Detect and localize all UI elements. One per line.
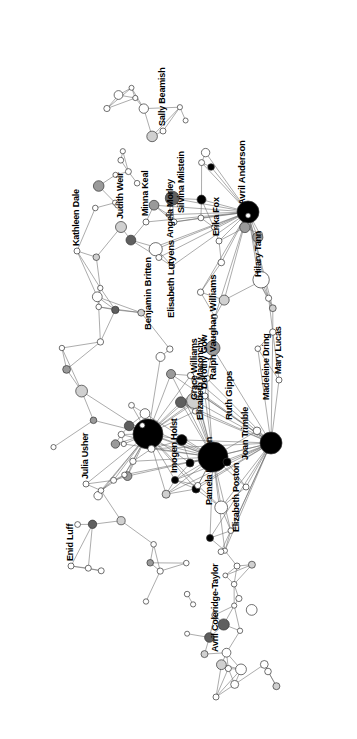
graph-node[interactable] bbox=[59, 345, 64, 350]
graph-node[interactable] bbox=[122, 472, 127, 477]
graph-node-dorothy-gow[interactable] bbox=[202, 393, 208, 399]
graph-node-julia-usher[interactable] bbox=[83, 481, 89, 487]
graph-node-kathleen-dale[interactable] bbox=[74, 248, 80, 254]
graph-node[interactable] bbox=[85, 565, 91, 571]
graph-node-erika-fox[interactable] bbox=[216, 238, 222, 244]
graph-node-enid-luff[interactable] bbox=[68, 563, 74, 569]
graph-node[interactable] bbox=[166, 212, 171, 217]
graph-node[interactable] bbox=[265, 668, 272, 675]
graph-node[interactable] bbox=[76, 385, 88, 397]
graph-node[interactable] bbox=[147, 131, 158, 142]
graph-node[interactable] bbox=[92, 292, 102, 302]
graph-node[interactable] bbox=[240, 222, 250, 232]
graph-node[interactable] bbox=[111, 440, 119, 448]
graph-node[interactable] bbox=[96, 304, 102, 310]
graph-node[interactable] bbox=[253, 232, 263, 242]
graph-node[interactable] bbox=[140, 423, 145, 428]
graph-node[interactable] bbox=[93, 205, 99, 211]
graph-node[interactable] bbox=[232, 603, 237, 608]
graph-node[interactable] bbox=[134, 180, 140, 186]
graph-node[interactable] bbox=[204, 375, 210, 381]
graph-node[interactable] bbox=[201, 651, 208, 658]
graph-node[interactable] bbox=[129, 85, 134, 90]
graph-node[interactable] bbox=[237, 628, 242, 633]
graph-node[interactable] bbox=[195, 482, 201, 488]
graph-node[interactable] bbox=[183, 118, 188, 123]
graph-node[interactable] bbox=[151, 542, 157, 548]
graph-node[interactable] bbox=[63, 366, 71, 374]
graph-node[interactable] bbox=[143, 599, 148, 604]
graph-node[interactable] bbox=[98, 285, 103, 290]
graph-node[interactable] bbox=[191, 602, 196, 607]
graph-node[interactable] bbox=[156, 255, 162, 261]
graph-node[interactable] bbox=[228, 528, 234, 534]
graph-node[interactable] bbox=[184, 560, 190, 566]
graph-node[interactable] bbox=[273, 683, 280, 690]
graph-node[interactable] bbox=[270, 329, 276, 335]
graph-node[interactable] bbox=[111, 477, 117, 483]
graph-node[interactable] bbox=[231, 581, 237, 587]
graph-node-elisabeth-lutyens[interactable] bbox=[167, 370, 176, 379]
graph-node[interactable] bbox=[139, 104, 148, 113]
graph-node[interactable] bbox=[118, 431, 124, 437]
graph-node[interactable] bbox=[192, 387, 201, 396]
graph-node[interactable] bbox=[104, 105, 110, 111]
graph-node[interactable] bbox=[260, 661, 268, 669]
graph-node[interactable] bbox=[266, 295, 272, 301]
graph-node-grace-williams[interactable] bbox=[186, 459, 194, 467]
graph-node[interactable] bbox=[197, 289, 203, 295]
graph-node[interactable] bbox=[120, 149, 125, 154]
graph-node[interactable] bbox=[218, 259, 225, 266]
graph-node-joan-trimble[interactable] bbox=[243, 484, 249, 490]
graph-node[interactable] bbox=[187, 372, 193, 378]
graph-node[interactable] bbox=[98, 568, 104, 574]
graph-node[interactable] bbox=[149, 200, 159, 210]
graph-node[interactable] bbox=[184, 591, 190, 597]
graph-node[interactable] bbox=[149, 243, 162, 256]
graph-node[interactable] bbox=[148, 445, 155, 452]
graph-node[interactable] bbox=[97, 339, 103, 345]
graph-node[interactable] bbox=[215, 501, 228, 514]
graph-node-sally-beamish[interactable] bbox=[160, 128, 166, 134]
graph-node[interactable] bbox=[176, 397, 187, 408]
graph-node[interactable] bbox=[246, 605, 257, 616]
graph-node-silvina-milstein[interactable] bbox=[171, 219, 177, 225]
graph-node[interactable] bbox=[112, 306, 119, 313]
graph-node[interactable] bbox=[236, 595, 242, 601]
graph-node[interactable] bbox=[140, 409, 150, 419]
graph-node[interactable] bbox=[223, 573, 228, 578]
graph-node[interactable] bbox=[98, 488, 104, 494]
graph-node[interactable] bbox=[157, 568, 163, 574]
graph-node[interactable] bbox=[269, 305, 276, 312]
graph-node-pamela-harrison[interactable] bbox=[207, 535, 214, 542]
graph-node[interactable] bbox=[88, 520, 96, 528]
graph-node[interactable] bbox=[255, 346, 261, 352]
graph-node[interactable] bbox=[75, 522, 81, 528]
graph-node[interactable] bbox=[129, 402, 135, 408]
graph-node[interactable] bbox=[156, 352, 165, 361]
graph-node[interactable] bbox=[147, 560, 154, 567]
graph-node-avril-coleridge-taylor[interactable] bbox=[213, 694, 219, 700]
graph-node-benjamin-britten[interactable] bbox=[133, 419, 163, 449]
graph-node[interactable] bbox=[51, 445, 56, 450]
graph-node-mary-lucas[interactable] bbox=[276, 377, 282, 383]
graph-node[interactable] bbox=[121, 441, 126, 446]
graph-node[interactable] bbox=[192, 409, 198, 415]
graph-node[interactable] bbox=[133, 95, 138, 100]
graph-node[interactable] bbox=[118, 157, 124, 163]
graph-node[interactable] bbox=[201, 148, 209, 156]
graph-node-judith-weir[interactable] bbox=[116, 222, 127, 233]
graph-node[interactable] bbox=[165, 191, 179, 205]
graph-node-elizabeth-poston[interactable] bbox=[234, 563, 240, 569]
graph-node[interactable] bbox=[162, 490, 170, 498]
graph-node[interactable] bbox=[197, 195, 206, 204]
graph-node[interactable] bbox=[208, 164, 215, 171]
graph-node[interactable] bbox=[211, 225, 216, 230]
graph-node-imogen-holst[interactable] bbox=[172, 477, 179, 484]
graph-node[interactable] bbox=[248, 561, 255, 568]
graph-node[interactable] bbox=[130, 458, 136, 464]
graph-node[interactable] bbox=[114, 91, 123, 100]
graph-node-ruth-gipps[interactable] bbox=[223, 458, 231, 466]
graph-node[interactable] bbox=[236, 664, 247, 675]
graph-node[interactable] bbox=[219, 295, 229, 305]
